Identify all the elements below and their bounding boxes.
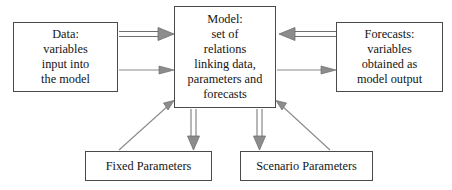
model-flow-diagram: Data: variables input into the model Mod…: [0, 0, 452, 190]
edge-data-to-model-thin: [119, 66, 174, 74]
node-scenario-parameters-label: Scenario Parameters: [241, 159, 372, 174]
node-data-label: Data: variables input into the model: [14, 27, 117, 87]
edge-fixed-parameters-to-model: [119, 101, 174, 151]
node-data[interactable]: Data: variables input into the model: [13, 22, 118, 92]
node-scenario-parameters[interactable]: Scenario Parameters: [240, 151, 373, 181]
edge-model-to-scenario-parameters: [254, 109, 266, 150]
node-model[interactable]: Model: set of relations linking data, pa…: [174, 6, 276, 108]
node-forecasts-label: Forecasts: variables obtained as model o…: [337, 27, 442, 87]
edge-model-to-fixed-parameters: [188, 109, 200, 150]
node-fixed-parameters[interactable]: Fixed Parameters: [85, 151, 212, 181]
edge-scenario-parameters-to-model: [276, 101, 330, 151]
node-fixed-parameters-label: Fixed Parameters: [86, 159, 211, 174]
edge-data-to-model-thick: [119, 28, 174, 41]
edge-model-to-forecasts-thin: [277, 66, 336, 74]
edge-forecasts-to-model-thick: [279, 28, 336, 41]
node-model-label: Model: set of relations linking data, pa…: [175, 12, 275, 102]
node-forecasts[interactable]: Forecasts: variables obtained as model o…: [336, 22, 443, 92]
